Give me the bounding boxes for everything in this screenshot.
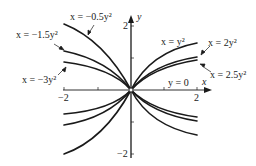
- label-neg-1.5: x = −1.5y²: [16, 30, 58, 40]
- y-tick-label-2: 2: [123, 21, 128, 31]
- origin-point: [129, 88, 133, 92]
- curve-neg-3: [64, 62, 131, 90]
- label-neg-0.5: x = −0.5y²: [70, 12, 112, 22]
- x-axis-arrow-icon: [204, 87, 212, 93]
- y-tick-label-neg2: −2: [117, 149, 128, 159]
- y-axis-label: y: [137, 12, 141, 22]
- label-two-half: x = 2.5y²: [210, 70, 246, 80]
- label-two: x = 2y²: [208, 38, 237, 48]
- x-tick-label-neg2: −2: [58, 93, 69, 103]
- label-one: x = y²: [161, 37, 185, 47]
- label-zero: y = 0: [168, 78, 189, 88]
- label-neg-3: x = −3y²: [22, 75, 56, 85]
- x-tick-label-2: 2: [194, 93, 199, 103]
- y-axis-arrow-icon: [128, 15, 134, 23]
- curve-neg-3-lower: [64, 90, 131, 114]
- curve-neg-1.5: [64, 51, 131, 90]
- x-axis-label: x: [202, 77, 206, 87]
- label-pointers: [54, 25, 211, 75]
